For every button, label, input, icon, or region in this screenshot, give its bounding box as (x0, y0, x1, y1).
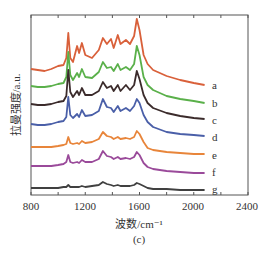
x-tick-label: 2000 (182, 200, 204, 212)
spectrum-curve-g (31, 182, 205, 190)
series-label-a: a (212, 79, 217, 91)
spectra-curves (31, 19, 205, 190)
x-axis-label: 波数/cm⁻¹ (115, 215, 163, 231)
series-label-g: g (212, 183, 218, 195)
x-tick-label: 800 (23, 200, 40, 212)
series-label-c: c (212, 114, 217, 126)
series-label-e: e (212, 149, 217, 161)
series-label-d: d (212, 131, 218, 143)
spectrum-curve-b (31, 46, 205, 103)
series-label-f: f (212, 166, 216, 178)
spectrum-curve-f (31, 151, 205, 173)
figure-sublabel: (c) (133, 233, 145, 245)
series-label-b: b (212, 97, 218, 109)
spectrum-curve-a (31, 19, 205, 85)
spectrum-curve-c (31, 70, 205, 119)
x-tick-label: 1200 (74, 200, 96, 212)
x-tick-label: 2400 (236, 200, 258, 212)
x-tick-label: 1600 (128, 200, 150, 212)
y-axis-label: 拉曼强度/a.u. (7, 74, 23, 137)
